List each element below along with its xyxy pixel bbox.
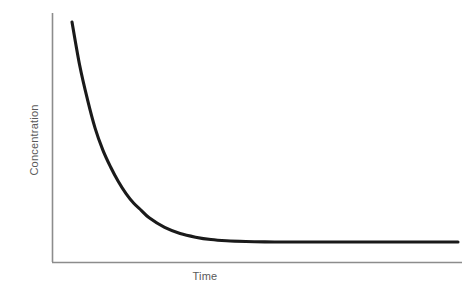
x-axis-label: Time [145, 270, 265, 282]
chart-plot-area [0, 0, 475, 301]
y-axis-label: Concentration [28, 60, 40, 220]
chart-container: Concentration Time [0, 0, 475, 301]
decay-curve-line [72, 22, 458, 242]
